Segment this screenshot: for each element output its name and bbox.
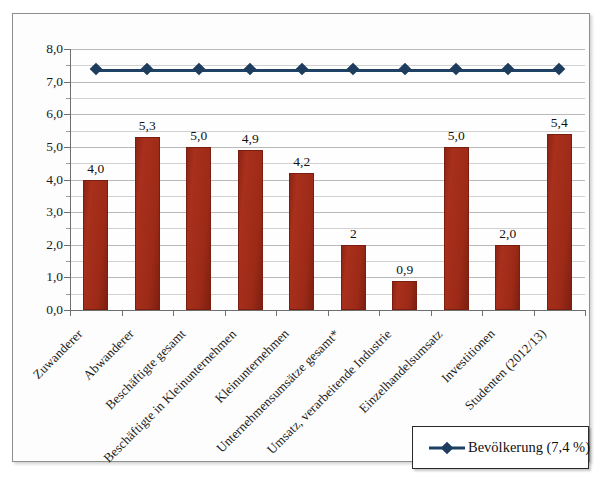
- bar: [392, 281, 417, 310]
- bar: [341, 245, 366, 310]
- gridline-major: [70, 49, 585, 50]
- bar-value-label: 5,4: [551, 115, 568, 131]
- y-axis-tick-mark: [64, 114, 70, 115]
- y-axis-tick-label: 2,0: [19, 237, 63, 253]
- y-axis-tick-mark: [64, 245, 70, 246]
- y-axis-tick-mark: [64, 49, 70, 50]
- y-axis-line: [70, 49, 71, 310]
- y-axis-tick-mark: [66, 294, 70, 295]
- bar-value-label: 2: [350, 226, 357, 242]
- bar: [495, 245, 520, 310]
- y-axis-tick-label: 5,0: [19, 139, 63, 155]
- y-axis-tick-label: 3,0: [19, 204, 63, 220]
- bar: [547, 134, 572, 310]
- x-axis-category-label: Zuwanderer: [29, 326, 85, 382]
- bar: [444, 147, 469, 310]
- y-axis-tick-mark: [66, 98, 70, 99]
- y-axis-tick-mark: [64, 82, 70, 83]
- y-axis-tick-mark: [66, 261, 70, 262]
- gridline-minor: [70, 98, 585, 99]
- y-axis-tick-label: 8,0: [19, 41, 63, 57]
- y-axis-tick-mark: [66, 196, 70, 197]
- bar-value-label: 4,0: [87, 161, 104, 177]
- y-axis-tick-mark: [64, 212, 70, 213]
- bar: [289, 173, 314, 310]
- y-axis-tick-mark: [66, 228, 70, 229]
- bar-value-label: 5,3: [139, 118, 156, 134]
- bar: [135, 137, 160, 310]
- legend-label: Bevölkerung (7,4 %): [468, 439, 590, 456]
- bar: [186, 147, 211, 310]
- bar-value-label: 2,0: [499, 226, 516, 242]
- chart-frame: 0,01,02,03,04,05,06,07,08,0 4,05,35,04,9…: [12, 13, 590, 462]
- legend-line-marker-icon: [429, 442, 465, 454]
- y-axis-tick-label: 6,0: [19, 106, 63, 122]
- y-axis-tick-mark: [66, 131, 70, 132]
- chart-legend: Bevölkerung (7,4 %): [412, 426, 589, 469]
- population-reference-line: [96, 69, 560, 72]
- bar-value-label: 5,0: [190, 128, 207, 144]
- y-axis-tick-mark: [64, 180, 70, 181]
- bar: [238, 150, 263, 310]
- bar-value-label: 5,0: [448, 128, 465, 144]
- y-axis-tick-mark: [64, 147, 70, 148]
- gridline-major: [70, 114, 585, 115]
- y-axis-tick-label: 4,0: [19, 172, 63, 188]
- y-axis-tick-mark: [66, 163, 70, 164]
- bar: [83, 180, 108, 311]
- bar-value-label: 4,2: [293, 154, 310, 170]
- y-axis-tick-label: 7,0: [19, 74, 63, 90]
- y-axis-tick-label: 1,0: [19, 269, 63, 285]
- y-axis-tick-mark: [64, 277, 70, 278]
- gridline-major: [70, 82, 585, 83]
- bar-value-label: 0,9: [396, 262, 413, 278]
- y-axis-tick-mark: [66, 65, 70, 66]
- bar-value-label: 4,9: [242, 131, 259, 147]
